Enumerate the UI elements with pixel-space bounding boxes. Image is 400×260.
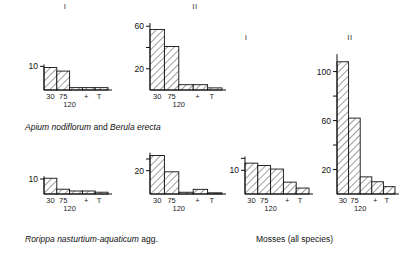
bar (372, 182, 384, 194)
bar (193, 189, 207, 194)
chart-panel-mosses-I: 103075+T120 (215, 152, 315, 212)
x-axis-tick-label: 30 (247, 196, 255, 205)
chart-mosses-II: 20601003075+T120 (305, 48, 400, 212)
y-axis-tick-label: 60 (322, 116, 332, 126)
x-axis-tick-label: + (195, 196, 200, 205)
y-axis-tick-label: 20 (135, 166, 145, 176)
x-axis-tick-label: + (195, 92, 200, 101)
chart-panel-apium-I: 103075+T120 (8, 60, 118, 108)
bar (383, 187, 395, 194)
x-axis-tick-label-secondary: 120 (63, 204, 76, 212)
caption-mosses: Mosses (all species) (256, 234, 333, 244)
x-axis-tick-label: T (97, 92, 102, 101)
bar (150, 29, 164, 90)
bar (57, 71, 70, 90)
x-axis-tick-label-secondary: 120 (354, 204, 367, 212)
column-header-mosses-I: I (236, 33, 256, 42)
bar (349, 118, 361, 194)
bar (258, 166, 271, 195)
chart-apium-II: 20603075+T120 (118, 18, 228, 108)
y-axis-tick-label: 10 (230, 165, 240, 175)
x-axis-tick-label: T (97, 196, 102, 205)
column-header-mosses-II: II (340, 33, 360, 42)
bar (337, 62, 349, 194)
x-axis-tick-label: 30 (339, 196, 347, 205)
y-axis-tick-label: 20 (135, 64, 145, 74)
bar (271, 169, 284, 194)
x-axis-tick-label-secondary: 120 (264, 204, 277, 212)
column-header-apium-II: II (185, 2, 205, 11)
bar (193, 85, 207, 90)
chart-panel-rorippa-II: 203075+T120 (118, 148, 228, 212)
bar-series (337, 62, 395, 194)
chart-panel-mosses-II: 20601003075+T120 (305, 48, 400, 212)
y-axis-tick-label: 20 (322, 165, 332, 175)
bar (360, 177, 372, 194)
caption-joiner: agg. (139, 234, 158, 244)
x-axis-tick-label: + (84, 196, 89, 205)
x-axis-tick-label: 30 (153, 196, 161, 205)
x-axis-tick-label-secondary: 120 (173, 100, 186, 108)
x-axis-tick-label-secondary: 120 (173, 204, 186, 212)
caption-species-name-2: Berula erecta (110, 122, 161, 132)
y-axis-tick-label: 60 (135, 21, 145, 31)
x-axis-tick-label: + (373, 196, 378, 205)
caption-species-name: Apium nodiflorum (25, 122, 91, 132)
bar-series (150, 29, 222, 90)
bar (179, 85, 193, 90)
x-axis-tick-label: T (298, 196, 303, 205)
bar-series (245, 163, 309, 194)
y-axis-tick-label: 10 (29, 61, 39, 71)
chart-rorippa-I: 103075+T120 (8, 172, 118, 212)
chart-mosses-I: 103075+T120 (215, 152, 315, 212)
bar (245, 163, 258, 194)
column-header-apium-I: I (55, 2, 75, 11)
bar (57, 189, 70, 194)
bar (283, 182, 296, 194)
x-axis-tick-label: 30 (153, 92, 161, 101)
x-axis-tick-label: T (210, 196, 215, 205)
chart-panel-apium-II: 20603075+T120 (118, 18, 228, 108)
x-axis-tick-label: + (285, 196, 290, 205)
chart-rorippa-II: 203075+T120 (118, 148, 228, 212)
bar (164, 172, 178, 194)
chart-apium-I: 103075+T120 (8, 60, 118, 108)
caption-species-name: Rorippa nasturtium-aquaticum (25, 234, 139, 244)
bar (150, 156, 164, 195)
x-axis-tick-label: 30 (46, 196, 54, 205)
caption-joiner: and (91, 122, 110, 132)
x-axis-tick-label: 30 (46, 92, 54, 101)
bar (164, 46, 178, 90)
bar-series (150, 156, 222, 195)
caption-rorippa: Rorippa nasturtium-aquaticum agg. (25, 234, 158, 244)
x-axis-tick-label-secondary: 120 (63, 100, 76, 108)
y-axis-tick-label: 10 (29, 174, 39, 184)
chart-panel-rorippa-I: 103075+T120 (8, 172, 118, 212)
x-axis-tick-label: T (385, 196, 390, 205)
x-axis-tick-label: T (210, 92, 215, 101)
caption-apium: Apium nodiflorum and Berula erecta (25, 122, 161, 132)
bar (44, 178, 57, 194)
bar-series (44, 178, 108, 194)
bar-series (44, 68, 108, 90)
y-axis-tick-label: 100 (317, 67, 331, 77)
caption-group-name: Mosses (all species) (256, 234, 333, 244)
x-axis-tick-label: + (84, 92, 89, 101)
bar (44, 68, 57, 90)
